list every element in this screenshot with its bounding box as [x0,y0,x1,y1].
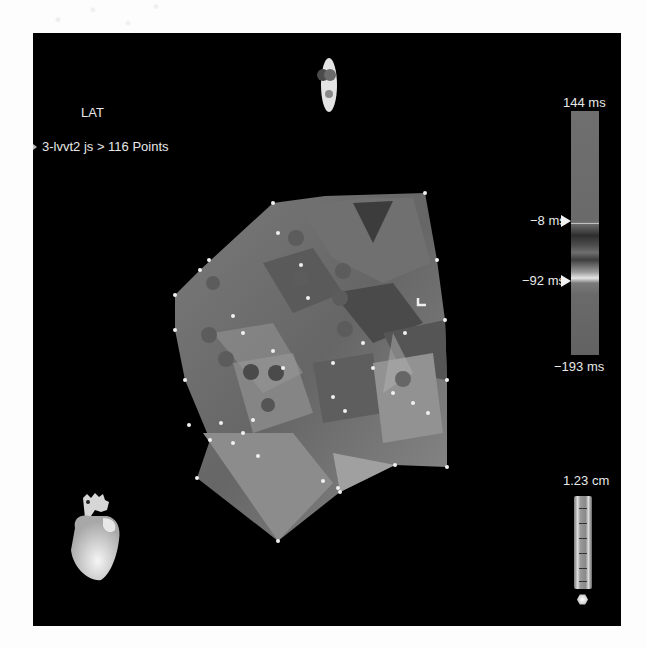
scale-label: 1.23 cm [563,473,609,488]
heart-model-icon[interactable] [61,488,133,588]
triangle-right-icon[interactable] [561,275,571,287]
scale-ruler-icon [574,496,592,589]
colorbar-max-label: 144 ms [563,95,606,110]
map-viewport[interactable]: LAT 3-lvvt2 js > 116 Points [33,33,621,626]
triangle-right-icon[interactable] [561,215,571,227]
scan-noise [30,0,170,33]
colorbar-min-label: −193 ms [554,359,604,374]
lat-colorbar[interactable] [571,111,599,355]
colorbar-marker-lower-label: −92 ms [522,273,565,288]
